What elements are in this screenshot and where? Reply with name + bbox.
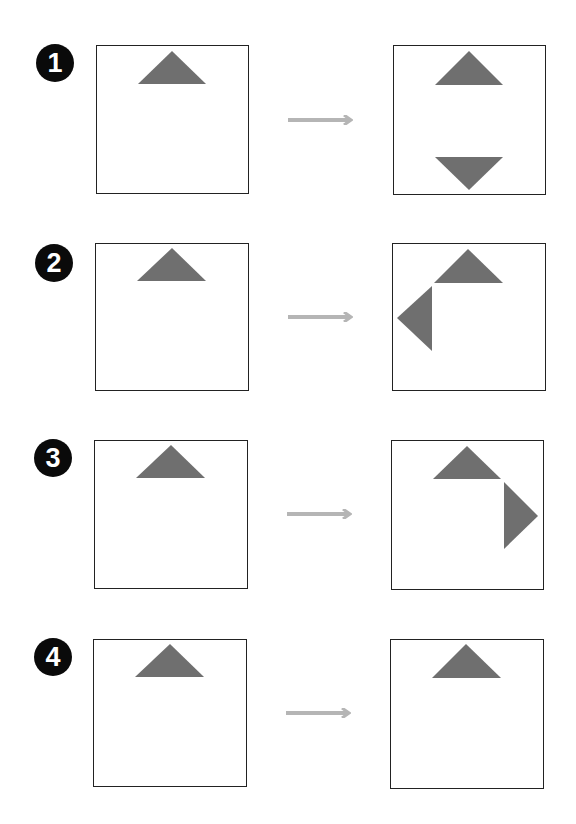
step-number-badge: 4	[34, 638, 72, 676]
before-box	[93, 639, 247, 787]
after-box	[390, 639, 544, 789]
step-4: 4	[0, 0, 576, 824]
